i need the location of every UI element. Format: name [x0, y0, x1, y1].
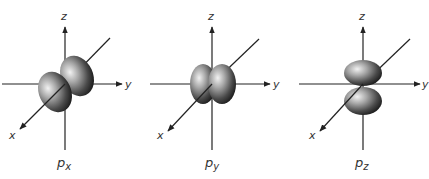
- orbital-lobe-bottom: [344, 87, 382, 115]
- x-axis-label: x: [156, 129, 164, 142]
- x-axis-label: x: [8, 129, 16, 142]
- z-axis-label: z: [60, 10, 67, 23]
- z-axis-label: z: [358, 10, 365, 23]
- orbital-label-px: px: [56, 155, 71, 172]
- orbital-lobe-right: [208, 64, 236, 104]
- y-axis-label: y: [124, 78, 132, 91]
- panel-px: z y x px: [2, 10, 132, 172]
- panel-py: z y x py: [150, 10, 280, 172]
- p-orbitals-diagram: z y x px z y x py z y x pz: [0, 0, 429, 179]
- y-axis-label: y: [272, 78, 280, 91]
- orbital-lobe-top: [344, 60, 382, 86]
- y-axis-label: y: [421, 78, 429, 91]
- x-axis: [168, 84, 212, 131]
- orbital-label-pz: pz: [354, 155, 369, 172]
- orbital-label-py: py: [204, 155, 220, 172]
- z-axis-label: z: [207, 10, 214, 23]
- x-axis-label: x: [308, 129, 316, 142]
- panel-pz: z y x pz: [299, 10, 429, 172]
